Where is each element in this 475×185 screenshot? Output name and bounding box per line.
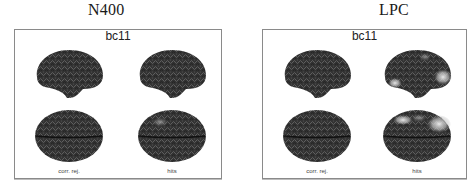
n400-corr-rej-lateral-brain: [33, 47, 105, 101]
lpc-frame-title: bc11: [263, 29, 466, 43]
lpc-hits-label: hits: [377, 168, 457, 174]
n400-hits-dorsal-brain: [136, 108, 208, 164]
n400-corr-rej-dorsal-brain: [33, 108, 105, 164]
n400-hits-lateral-brain: [136, 47, 208, 101]
lpc-column-title: LPC: [379, 1, 409, 19]
n400-figure-frame: bc11 corr. rej. hits: [14, 29, 222, 179]
lpc-hits-lateral-brain: [381, 47, 453, 101]
lpc-corr-rej-dorsal-brain: [281, 108, 353, 164]
lpc-corr-rej-label: corr. rej.: [277, 168, 357, 174]
n400-frame-title: bc11: [15, 29, 221, 43]
lpc-corr-rej-lateral-brain: [281, 47, 353, 101]
n400-hits-label: hits: [132, 168, 212, 174]
n400-corr-rej-label: corr. rej.: [29, 168, 109, 174]
n400-column-title: N400: [88, 1, 124, 19]
lpc-hits-dorsal-brain: [381, 108, 453, 164]
lpc-figure-frame: bc11 corr. rej. hits: [262, 29, 467, 179]
